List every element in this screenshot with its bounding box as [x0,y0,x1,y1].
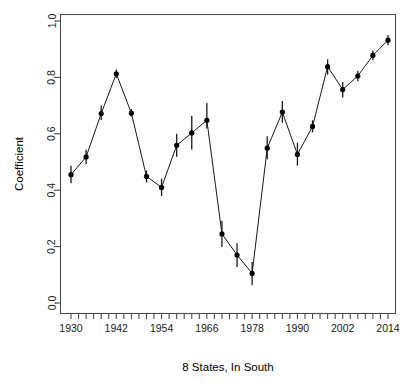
data-point-marker [370,53,375,58]
x-axis-tick-label: 1966 [195,322,219,334]
y-axis-tick-label: 0.2 [46,239,58,254]
data-point-marker [68,172,73,177]
x-axis-tick-label: 2014 [376,322,400,334]
y-axis-tick-label: 0.6 [46,126,58,141]
data-point-marker [234,252,239,257]
data-point-marker [83,154,88,159]
series-line [71,40,388,273]
data-point-marker [340,87,345,92]
data-point-marker [325,64,330,69]
data-point-marker [385,38,390,43]
x-axis-title: 8 States, In South [182,361,273,373]
plot-box-border [61,15,396,314]
data-point-marker [144,174,149,179]
x-axis-tick-label: 1978 [240,322,264,334]
data-point-marker [280,109,285,114]
y-axis-tick-label: 1.0 [46,14,58,29]
data-point-marker [219,231,224,236]
data-point-marker [265,146,270,151]
data-point-marker [189,130,194,135]
y-axis-tick-label: 0.8 [46,70,58,85]
y-axis-tick-label: 0.4 [46,183,58,198]
data-point-marker [174,143,179,148]
data-point-marker [204,118,209,123]
data-point-marker [310,124,315,129]
coefficient-line-chart: 193019421954196619781990200220140.00.20.… [0,0,411,391]
data-point-marker [129,111,134,116]
x-axis-tick-label: 1942 [105,322,129,334]
data-point-marker [99,111,104,116]
y-axis-title: Coefficient [13,136,25,191]
x-axis-tick-label: 1954 [150,322,174,334]
chart-figure: 193019421954196619781990200220140.00.20.… [0,0,411,391]
x-axis-tick-label: 1930 [59,322,83,334]
data-point-marker [114,71,119,76]
data-point-marker [355,73,360,78]
data-point-marker [159,185,164,190]
y-axis-tick-label: 0.0 [46,296,58,311]
data-point-marker [295,152,300,157]
x-axis-tick-label: 1990 [286,322,310,334]
x-axis-tick-label: 2002 [331,322,355,334]
data-point-marker [250,271,255,276]
